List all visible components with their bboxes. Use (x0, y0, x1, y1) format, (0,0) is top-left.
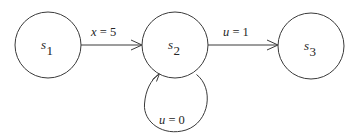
edge-label-e2-value: 1 (243, 25, 249, 39)
edge-label-e1-value: 5 (110, 25, 116, 39)
node-label-s1-base: s (41, 37, 46, 52)
edge-label-e2-variable: u (223, 25, 229, 39)
edge-label-e2-operator: = (232, 25, 239, 39)
edge-label-u-equals-0: u = 0 (159, 114, 185, 127)
edge-label-x-equals-5: x = 5 (91, 26, 116, 39)
edge-label-e1-operator: = (100, 25, 107, 39)
node-label-s3-subscript: 3 (310, 44, 317, 59)
edge-label-u-equals-1: u = 1 (223, 26, 249, 39)
node-label-s3: s3 (304, 39, 316, 58)
edge-label-e3-variable: u (159, 113, 165, 127)
edge-label-e3-operator: = (168, 113, 175, 127)
self-loop-arrowhead (153, 74, 160, 82)
edge-label-e3-value: 0 (179, 113, 185, 127)
edge-label-e1-variable: x (91, 25, 97, 39)
node-label-s1-subscript: 1 (47, 43, 54, 58)
node-label-s2-base: s (168, 37, 173, 52)
node-label-s1: s1 (41, 38, 53, 57)
node-label-s2: s2 (168, 38, 180, 57)
node-label-s3-base: s (304, 38, 309, 53)
state-transition-diagram: s1 s2 s3 x = 5 u = 1 u = 0 (0, 0, 355, 139)
node-label-s2-subscript: 2 (174, 43, 181, 58)
